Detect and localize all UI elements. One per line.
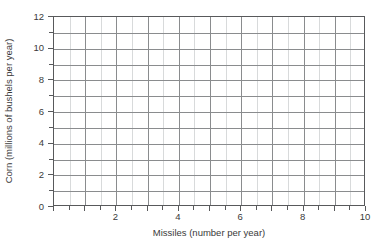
gridline-horizontal bbox=[54, 191, 364, 192]
x-tick bbox=[84, 206, 85, 211]
gridline-vertical bbox=[319, 17, 320, 205]
y-tick-label: 4 bbox=[20, 137, 44, 148]
x-tick bbox=[53, 206, 54, 211]
y-tick-label: 8 bbox=[20, 74, 44, 85]
gridline-horizontal bbox=[54, 128, 364, 129]
y-tick bbox=[49, 190, 53, 191]
y-tick bbox=[49, 159, 53, 160]
gridline-vertical bbox=[148, 17, 149, 205]
gridline-vertical bbox=[163, 17, 164, 205]
x-tick bbox=[334, 206, 335, 211]
gridline-vertical bbox=[179, 17, 180, 205]
y-tick bbox=[49, 95, 53, 96]
x-tick bbox=[349, 206, 350, 210]
gridline-vertical bbox=[116, 17, 117, 205]
x-tick-label: 8 bbox=[288, 211, 318, 222]
y-tick-label: 10 bbox=[20, 42, 44, 53]
y-tick-label: 12 bbox=[20, 11, 44, 22]
gridline-horizontal bbox=[54, 49, 364, 50]
gridline-horizontal bbox=[54, 80, 364, 81]
y-tick-label: 6 bbox=[20, 106, 44, 117]
gridline-vertical bbox=[257, 17, 258, 205]
x-tick bbox=[193, 206, 194, 210]
y-tick bbox=[48, 79, 53, 80]
gridline-vertical bbox=[132, 17, 133, 205]
x-tick bbox=[147, 206, 148, 211]
x-tick-label: 4 bbox=[163, 211, 193, 222]
y-tick bbox=[48, 174, 53, 175]
x-tick-label: 2 bbox=[100, 211, 130, 222]
y-tick-label: 0 bbox=[20, 201, 44, 212]
gridline-horizontal bbox=[54, 33, 364, 34]
gridline-horizontal bbox=[54, 65, 364, 66]
gridline-vertical bbox=[194, 17, 195, 205]
gridline-vertical bbox=[70, 17, 71, 205]
gridlines bbox=[54, 17, 364, 205]
x-tick bbox=[100, 206, 101, 210]
y-tick bbox=[48, 48, 53, 49]
y-tick bbox=[48, 143, 53, 144]
x-tick bbox=[225, 206, 226, 210]
x-tick-label: 10 bbox=[350, 211, 380, 222]
y-axis-title: Corn (millions of bushels per year) bbox=[3, 39, 14, 184]
x-tick bbox=[209, 206, 210, 211]
gridline-vertical bbox=[288, 17, 289, 205]
gridline-vertical bbox=[210, 17, 211, 205]
gridline-horizontal bbox=[54, 175, 364, 176]
gridline-vertical bbox=[272, 17, 273, 205]
gridline-horizontal bbox=[54, 96, 364, 97]
chart-figure: 246810 024681012 Missiles (number per ye… bbox=[0, 0, 384, 249]
y-tick-label: 2 bbox=[20, 169, 44, 180]
gridline-vertical bbox=[101, 17, 102, 205]
y-tick bbox=[48, 206, 53, 207]
gridline-vertical bbox=[304, 17, 305, 205]
x-axis-title: Missiles (number per year) bbox=[53, 227, 365, 238]
x-tick bbox=[162, 206, 163, 210]
gridline-horizontal bbox=[54, 144, 364, 145]
x-tick bbox=[271, 206, 272, 211]
plot-area bbox=[53, 16, 365, 206]
x-tick-label: 6 bbox=[225, 211, 255, 222]
gridline-vertical bbox=[335, 17, 336, 205]
y-tick bbox=[48, 111, 53, 112]
y-axis-title-wrap: Corn (millions of bushels per year) bbox=[0, 16, 16, 206]
x-tick bbox=[131, 206, 132, 210]
y-tick bbox=[49, 32, 53, 33]
x-tick bbox=[256, 206, 257, 210]
x-tick bbox=[287, 206, 288, 210]
gridline-vertical bbox=[226, 17, 227, 205]
gridline-vertical bbox=[350, 17, 351, 205]
gridline-horizontal bbox=[54, 160, 364, 161]
x-tick bbox=[69, 206, 70, 210]
gridline-vertical bbox=[241, 17, 242, 205]
y-tick bbox=[49, 64, 53, 65]
gridline-horizontal bbox=[54, 112, 364, 113]
y-tick bbox=[48, 16, 53, 17]
y-tick bbox=[49, 127, 53, 128]
x-tick bbox=[318, 206, 319, 210]
gridline-vertical bbox=[85, 17, 86, 205]
